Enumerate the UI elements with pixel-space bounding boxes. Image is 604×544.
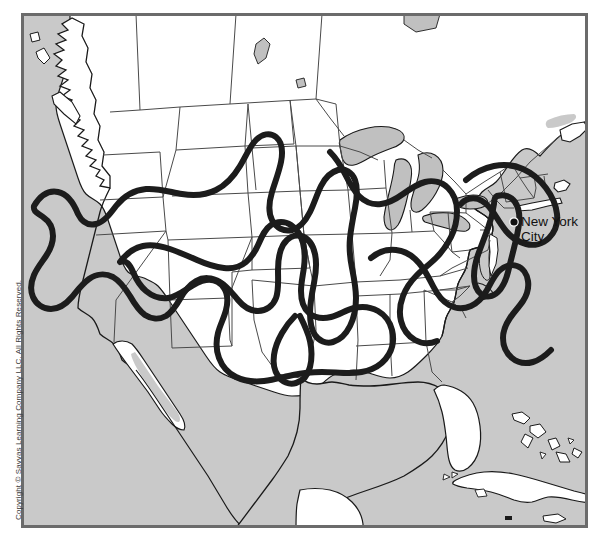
map-figure: New York City Copyright © Savvas Learnin… (0, 0, 604, 544)
city-label-line1: New York (521, 214, 578, 229)
city-marker-new-york-city (510, 218, 518, 226)
lake-of-the-woods (296, 78, 306, 88)
city-label-new-york-city: New York City (521, 214, 578, 244)
city-label-line2: City (521, 229, 578, 244)
island-small-nw-2 (30, 32, 40, 42)
map-svg (0, 0, 604, 544)
island-caribbean-dot (505, 516, 512, 520)
copyright-notice: Copyright © Savvas Learning Company LLC.… (12, 290, 26, 520)
